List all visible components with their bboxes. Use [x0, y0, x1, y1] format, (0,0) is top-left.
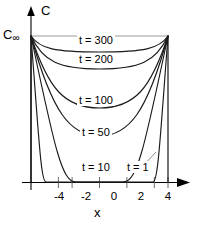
- c-infinity-label: C∞: [3, 28, 20, 43]
- y-axis-label: C: [41, 4, 50, 17]
- c-infinity-label-main: C: [3, 27, 12, 42]
- x-tick-label-2: 2: [131, 191, 151, 203]
- x-tick-label-minus2: -2: [76, 191, 96, 203]
- x-tick-label-zero: 0: [104, 191, 124, 203]
- curve-label-t-300: t = 300: [77, 34, 115, 46]
- curve-t-50: [31, 36, 168, 136]
- curve-label-t-100: t = 100: [77, 94, 115, 106]
- curve-label-t-1: t = 1: [125, 161, 151, 173]
- x-axis-label: x: [94, 206, 101, 219]
- c-infinity-label-subscript: ∞: [12, 32, 19, 43]
- concentration-profile-figure: C C∞ x -4 -2 0 2 4 t = 300 t = 200 t = 1…: [0, 0, 201, 227]
- curve-label-t-200: t = 200: [77, 53, 115, 65]
- curve-label-t-50: t = 50: [80, 126, 112, 138]
- curve-label-t-10: t = 10: [80, 161, 112, 173]
- x-tick-label-4: 4: [158, 191, 178, 203]
- x-tick-label-minus4: -4: [49, 191, 69, 203]
